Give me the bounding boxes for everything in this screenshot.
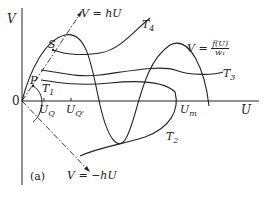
label-v-hU: V = hU xyxy=(81,8,122,19)
phase-diagram xyxy=(0,0,278,197)
label-UQprime: UQ' xyxy=(66,104,84,118)
panel-label: (a) xyxy=(30,171,45,182)
trajectory-T4 xyxy=(53,18,150,55)
v-axis-label: V xyxy=(7,13,16,25)
origin-label: 0 xyxy=(12,95,20,107)
label-v-minus-hU: V = −hU xyxy=(67,170,117,181)
f-curve-fraction: f(U) w₁ xyxy=(211,40,229,57)
f-curve-denominator: w₁ xyxy=(215,49,225,57)
label-Um: Um xyxy=(180,104,197,118)
label-T1: T1 xyxy=(42,83,54,97)
label-P: P xyxy=(30,75,37,86)
label-S: S xyxy=(48,39,56,50)
label-f-curve: V = f(U) w₁ xyxy=(187,40,229,57)
label-T4: T4 xyxy=(142,19,154,33)
label-UQ: UQ xyxy=(39,104,55,118)
trajectory-T3 xyxy=(41,68,223,76)
u-axis-label: U xyxy=(241,104,251,116)
trajectory-T2 xyxy=(41,80,176,156)
f-curve-prefix: V = xyxy=(187,42,211,55)
label-T3: T3 xyxy=(223,68,235,82)
label-T2: T2 xyxy=(166,131,178,145)
